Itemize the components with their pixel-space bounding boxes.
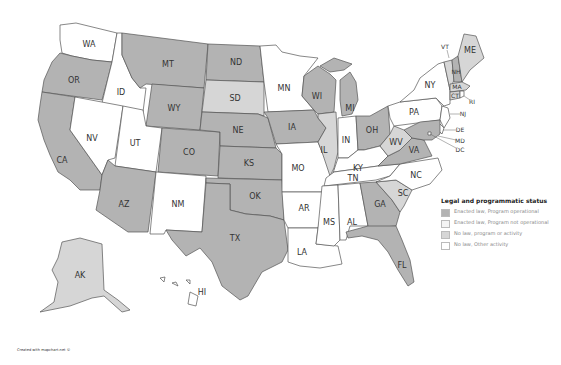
state-label-va: VA xyxy=(409,146,420,155)
state-label-de: DE xyxy=(456,126,465,133)
credit-text: Created with mapchart.net © xyxy=(17,348,70,352)
state-label-me: ME xyxy=(464,46,476,55)
state-label-ak: AK xyxy=(75,271,86,280)
state-label-sc: SC xyxy=(398,189,409,198)
state-label-wy: WY xyxy=(168,104,181,113)
state-label-dc: DC xyxy=(456,146,465,153)
state-label-al: AL xyxy=(347,218,357,227)
state-label-ok: OK xyxy=(249,192,261,201)
state-label-az: AZ xyxy=(119,200,130,209)
state-label-nm: NM xyxy=(172,200,185,209)
state-label-tn: TN xyxy=(347,174,359,183)
state-ME[interactable] xyxy=(458,34,484,82)
state-label-sd: SD xyxy=(229,94,240,103)
legend-item-no-law-program[interactable]: No law, program or activity xyxy=(441,230,561,239)
state-label-nh: NH xyxy=(452,68,461,75)
legend-swatch xyxy=(441,231,450,239)
state-label-ga: GA xyxy=(374,200,386,209)
state-label-ky: KY xyxy=(353,164,363,173)
state-label-fl: FL xyxy=(397,261,407,270)
state-label-id: ID xyxy=(117,88,126,97)
state-label-il: IL xyxy=(321,146,328,155)
state-label-ar: AR xyxy=(298,204,309,213)
state-AZ[interactable] xyxy=(96,160,156,232)
legend-title: Legal and programmatic status xyxy=(441,197,561,204)
state-label-nv: NV xyxy=(86,134,98,143)
state-label-vt: VT xyxy=(441,43,449,50)
state-NJ[interactable] xyxy=(440,106,450,128)
state-label-co: CO xyxy=(183,148,195,157)
state-label-ca: CA xyxy=(56,156,68,165)
state-label-la: LA xyxy=(297,248,308,257)
legend-label: Enacted law, Program operational xyxy=(454,208,539,214)
state-label-ks: KS xyxy=(244,159,254,168)
state-RI[interactable] xyxy=(460,91,464,98)
legend-swatch xyxy=(441,209,450,217)
state-label-pa: PA xyxy=(409,108,419,117)
state-label-ia: IA xyxy=(288,123,296,132)
state-label-wa: WA xyxy=(83,40,96,49)
legend-swatch xyxy=(441,242,450,250)
legend-item-enacted-operational[interactable]: Enacted law, Program operational xyxy=(441,208,561,217)
state-label-ct: CT xyxy=(451,92,459,99)
state-label-oh: OH xyxy=(366,126,378,135)
state-label-mn: MN xyxy=(278,84,291,93)
state-label-wv: WV xyxy=(389,138,403,147)
state-label-ms: MS xyxy=(323,218,335,227)
state-label-wi: WI xyxy=(312,92,322,101)
state-label-md: MD xyxy=(455,137,465,144)
state-label-nd: ND xyxy=(230,58,242,67)
state-label-ne: NE xyxy=(232,126,243,135)
legend-label: Enacted law, Program not operational xyxy=(454,219,549,225)
us-map: WAORCAIDNVMTWYUTCOAZNMNDSDNEKSOKTXMNIAMO… xyxy=(0,0,561,365)
state-HI[interactable] xyxy=(160,277,198,306)
legend-label: No law, program or activity xyxy=(454,230,522,236)
legend-label: No law, Other activity xyxy=(454,241,508,247)
legend-item-enacted-not-operational[interactable]: Enacted law, Program not operational xyxy=(441,219,561,228)
state-label-nc: NC xyxy=(410,171,422,180)
state-label-hi: HI xyxy=(198,288,206,297)
state-label-mo: MO xyxy=(291,164,304,173)
state-label-nj: NJ xyxy=(460,110,466,118)
state-label-mi: MI xyxy=(345,104,354,113)
legend-swatch xyxy=(441,220,450,228)
state-label-in: IN xyxy=(342,136,350,145)
state-label-tx: TX xyxy=(229,234,241,243)
state-label-ny: NY xyxy=(425,81,436,90)
state-label-or: OR xyxy=(68,76,80,85)
legend: Legal and programmatic status Enacted la… xyxy=(441,197,561,252)
state-label-ri: RI xyxy=(469,98,475,105)
state-label-ma: MA xyxy=(452,83,462,90)
state-label-ut: UT xyxy=(130,139,141,148)
state-label-mt: MT xyxy=(162,60,174,69)
legend-item-no-law-other[interactable]: No law, Other activity xyxy=(441,241,561,250)
state-FL[interactable] xyxy=(346,226,414,286)
